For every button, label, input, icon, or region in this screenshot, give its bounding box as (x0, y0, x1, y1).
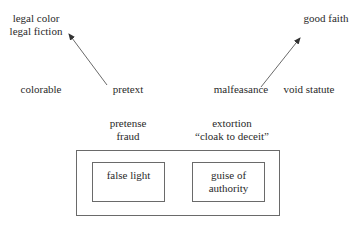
label-pretense: pretense (100, 117, 156, 130)
label-void-statute: void statute (276, 83, 342, 96)
label-legal-fiction-line2: legal fiction (6, 25, 66, 38)
label-legal-color-line1: legal color (6, 12, 66, 25)
arrow-pretext-to-legal-color (69, 34, 107, 85)
label-colorable: colorable (14, 83, 68, 96)
label-pretense-fraud: pretense fraud (100, 117, 156, 143)
label-malfeasance: malfeasance (206, 83, 276, 96)
label-false-light: false light (93, 169, 164, 182)
label-guise-of-authority: guise of authority (193, 169, 264, 195)
label-extortion: extortion (184, 117, 280, 130)
box-false-light: false light (92, 162, 165, 202)
label-fraud: fraud (100, 130, 156, 143)
label-cloak-to-deceit: “cloak to deceit” (184, 130, 280, 143)
arrow-malfeasance-to-good-faith (261, 38, 300, 87)
box-guise-of-authority: guise of authority (192, 162, 265, 202)
label-authority: authority (193, 182, 264, 195)
label-legal-color: legal color legal fiction (6, 12, 66, 38)
label-good-faith: good faith (296, 12, 356, 25)
label-pretext: pretext (108, 83, 148, 96)
label-extortion-cloak: extortion “cloak to deceit” (184, 117, 280, 143)
label-guise-of: guise of (193, 169, 264, 182)
